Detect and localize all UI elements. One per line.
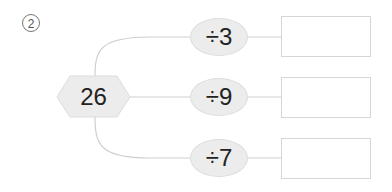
operation-1: ÷3 <box>190 18 248 56</box>
answer-box-2[interactable] <box>281 77 371 118</box>
start-value: 26 <box>57 76 130 118</box>
operation-3: ÷7 <box>190 139 248 177</box>
answer-box-1[interactable] <box>281 16 371 57</box>
operation-2: ÷9 <box>190 78 248 116</box>
answer-box-3[interactable] <box>281 138 371 179</box>
